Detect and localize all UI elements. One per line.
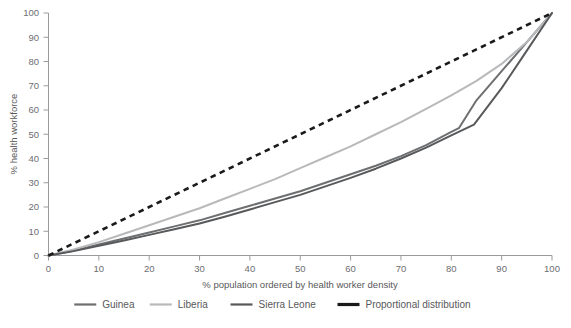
y-tick-label: 40 (28, 153, 39, 164)
y-axis-ticks (44, 13, 49, 256)
legend-label: Liberia (178, 299, 208, 310)
x-tick-label: 90 (496, 263, 507, 274)
y-tick-label: 30 (28, 177, 39, 188)
y-tick-label: 60 (28, 104, 39, 115)
y-axis-tick-labels: 0102030405060708090100 (23, 7, 39, 261)
x-tick-label: 40 (245, 263, 256, 274)
x-tick-label: 10 (94, 263, 105, 274)
x-tick-label: 70 (396, 263, 407, 274)
x-axis-tick-labels: 0102030405060708090100 (46, 263, 560, 274)
chart-legend: GuineaLiberiaSierra LeoneProportional di… (74, 299, 470, 310)
legend-item-sierra-leone[interactable]: Sierra Leone (231, 299, 317, 310)
x-axis-title: % population ordered by health worker de… (202, 279, 398, 290)
legend-item-guinea[interactable]: Guinea (74, 299, 135, 310)
x-tick-label: 60 (345, 263, 356, 274)
y-tick-label: 0 (34, 250, 39, 261)
y-axis-title: % health workforce (8, 94, 19, 175)
data-series-group (49, 13, 553, 256)
legend-item-liberia[interactable]: Liberia (150, 299, 208, 310)
legend-label: Sierra Leone (259, 299, 317, 310)
x-tick-label: 50 (295, 263, 306, 274)
y-tick-label: 50 (28, 129, 39, 140)
x-tick-label: 80 (446, 263, 457, 274)
x-tick-label: 20 (144, 263, 155, 274)
series-line-proportional-distribution (49, 13, 553, 256)
y-tick-label: 70 (28, 80, 39, 91)
legend-label: Proportional distribution (366, 299, 471, 310)
legend-label: Guinea (102, 299, 135, 310)
y-tick-label: 20 (28, 201, 39, 212)
lorenz-chart: 0102030405060708090100 01020304050607080… (0, 0, 571, 328)
x-tick-label: 30 (194, 263, 205, 274)
y-tick-label: 80 (28, 56, 39, 67)
x-tick-label: 100 (544, 263, 560, 274)
legend-item-proportional-distribution[interactable]: Proportional distribution (338, 299, 471, 310)
y-tick-label: 100 (23, 7, 39, 18)
x-tick-label: 0 (46, 263, 51, 274)
y-tick-label: 10 (28, 226, 39, 237)
y-tick-label: 90 (28, 32, 39, 43)
x-axis-ticks (49, 256, 553, 261)
chart-svg: 0102030405060708090100 01020304050607080… (0, 0, 571, 328)
